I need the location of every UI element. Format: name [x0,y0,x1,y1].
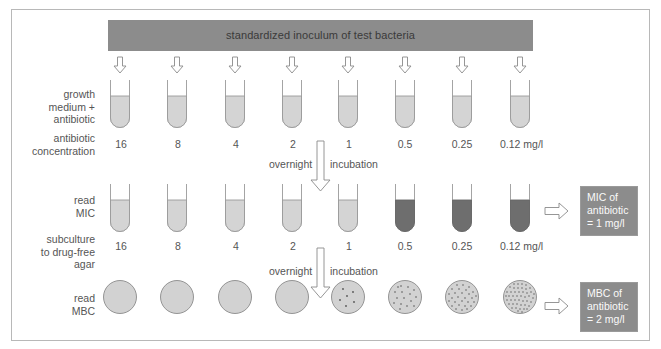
clear-tube-icon [226,184,245,232]
turbid-tube-icon [396,184,415,232]
inoculum-arrows [114,57,526,73]
agar-plate-icon [219,281,252,314]
right-arrow-icon [545,298,568,314]
clear-tube-icon [339,184,358,232]
down-arrow-icon [514,57,526,73]
down-arrow-icon [114,57,126,73]
test-tube-icon [453,80,472,128]
diagram-graphics [0,0,661,349]
turbid-tube-icon [511,184,530,232]
down-arrow-icon [456,57,468,73]
turbid-tube-icon [453,184,472,232]
tubes-row-mic [111,184,530,232]
down-arrow-icon [342,57,354,73]
incubation-arrow-1 [311,141,330,191]
agar-plate-icon [104,281,137,314]
test-tube-icon [339,80,358,128]
incubation-arrow-2 [311,248,330,298]
test-tube-icon [283,80,302,128]
down-arrow-icon [286,57,298,73]
test-tube-icon [511,80,530,128]
down-arrow-icon [229,57,241,73]
agar-plate-moderate-icon [389,281,422,314]
clear-tube-icon [111,184,130,232]
test-tube-icon [168,80,187,128]
test-tube-icon [111,80,130,128]
agar-plate-icon [276,281,309,314]
test-tube-icon [396,80,415,128]
agar-plate-very-dense-icon [504,281,537,314]
clear-tube-icon [168,184,187,232]
test-tube-icon [226,80,245,128]
clear-tube-icon [283,184,302,232]
tubes-row-initial [111,80,530,128]
down-arrow-icon [399,57,411,73]
agar-plate-icon [161,281,194,314]
right-arrow-icon [545,203,568,219]
agar-plate-sparse-icon [332,281,365,314]
agar-plate-dense-icon [446,281,479,314]
down-arrow-icon [171,57,183,73]
